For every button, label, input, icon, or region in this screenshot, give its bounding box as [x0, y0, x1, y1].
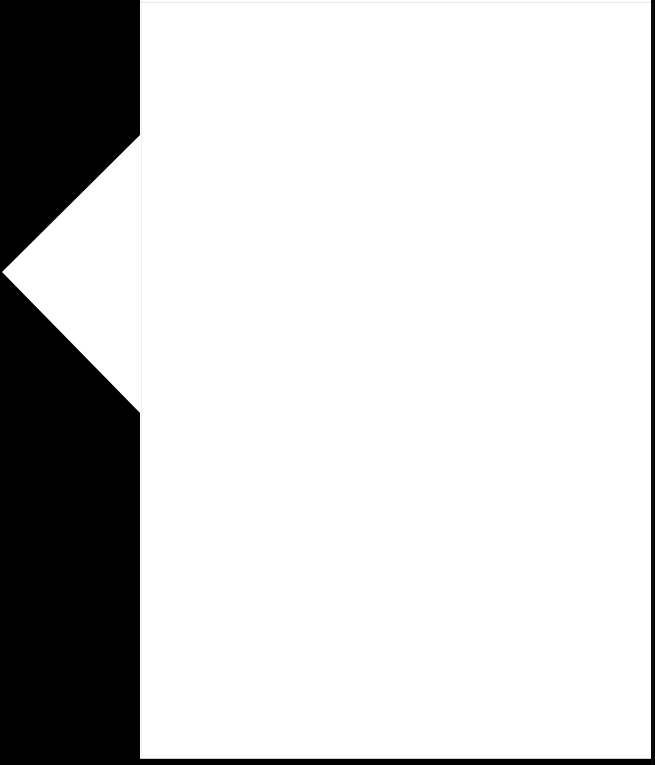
- panel-top-divider: [140, 2, 651, 3]
- panel-bottom-divider: [140, 758, 651, 759]
- screen-root: [0, 0, 655, 765]
- callout-arrow-shape: [0, 130, 142, 420]
- callout-content: [140, 0, 651, 759]
- panel-right-edge: [651, 0, 654, 765]
- panel-seam-divider: [141, 0, 142, 759]
- callout-panel[interactable]: [140, 0, 651, 759]
- callout-arrow-left-icon: [0, 130, 142, 420]
